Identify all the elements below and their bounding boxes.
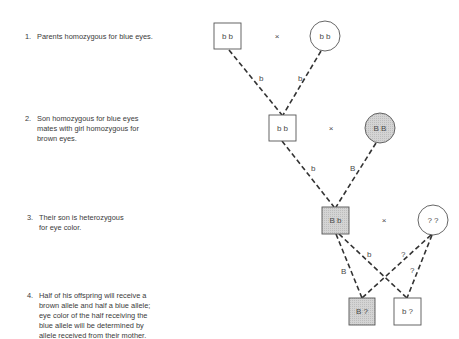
svg-text:b b: b b xyxy=(277,124,289,133)
allele-label: b xyxy=(311,164,316,173)
offspring-1: B ? xyxy=(349,298,375,325)
cross-symbol: × xyxy=(329,124,334,133)
allele-label: b xyxy=(259,74,264,83)
pedigree-diagram: b b × b b b b b b × B B b B B b × ? ? B … xyxy=(0,0,459,339)
svg-text:B b: B b xyxy=(329,216,342,225)
svg-text:b ?: b ? xyxy=(402,307,414,316)
allele-label: b xyxy=(298,74,303,83)
allele-label: B xyxy=(341,267,346,276)
gen2-male: b b xyxy=(269,115,296,141)
gen1-male: b b xyxy=(214,23,241,49)
allele-label: B xyxy=(350,164,355,173)
allele-label: ? xyxy=(410,266,415,275)
gen1-female: b b xyxy=(310,21,340,51)
inheritance-lines xyxy=(229,50,432,298)
allele-label: b xyxy=(367,250,372,259)
gen3-female: ? ? xyxy=(418,205,448,235)
gen2-female: B B xyxy=(365,113,395,143)
svg-text:? ?: ? ? xyxy=(427,216,439,225)
svg-text:B B: B B xyxy=(374,124,387,133)
allele-label: ? xyxy=(401,250,406,259)
cross-symbol: × xyxy=(382,216,387,225)
svg-text:b b: b b xyxy=(222,32,234,41)
svg-text:b b: b b xyxy=(319,32,331,41)
cross-symbol: × xyxy=(275,32,280,41)
svg-text:B ?: B ? xyxy=(356,307,369,316)
offspring-2: b ? xyxy=(394,298,421,325)
gen3-male: B b xyxy=(322,207,349,234)
